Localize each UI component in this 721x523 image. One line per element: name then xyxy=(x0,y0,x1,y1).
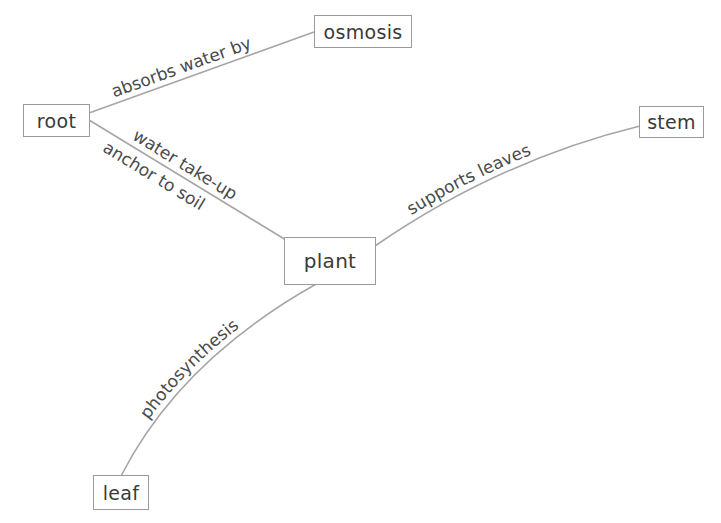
node-plant-label: plant xyxy=(304,249,357,273)
edge-root-osmosis xyxy=(89,32,314,113)
edge-label-supports-leaves: supports leaves xyxy=(403,140,534,219)
node-plant[interactable]: plant xyxy=(284,237,376,285)
node-root-label: root xyxy=(37,110,76,132)
node-leaf[interactable]: leaf xyxy=(93,475,149,510)
edge-label-absorbs-water-by: absorbs water by xyxy=(109,33,254,102)
node-root[interactable]: root xyxy=(23,104,90,137)
node-leaf-label: leaf xyxy=(103,482,140,504)
node-osmosis[interactable]: osmosis xyxy=(314,15,412,48)
edge-plant-stem xyxy=(375,126,640,246)
node-stem[interactable]: stem xyxy=(639,106,704,138)
edge-label-photosynthesis: photosynthesis xyxy=(135,315,242,423)
node-osmosis-label: osmosis xyxy=(324,21,403,43)
edge-plant-leaf xyxy=(121,283,318,476)
edge-root-plant xyxy=(89,120,286,240)
node-stem-label: stem xyxy=(647,111,696,133)
